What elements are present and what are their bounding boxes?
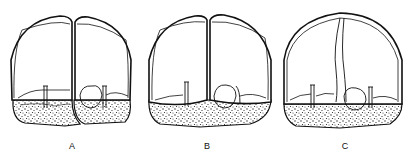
panel-label-c: C bbox=[342, 141, 349, 151]
panel-b-illustration bbox=[149, 15, 271, 127]
panel-a-left-cusp bbox=[11, 16, 72, 100]
diagram-canvas bbox=[0, 0, 409, 160]
panel-b-right-cusp bbox=[210, 15, 271, 104]
panel-b-left-cusp bbox=[149, 16, 207, 105]
panel-a-illustration bbox=[11, 16, 131, 126]
panel-c-base bbox=[284, 104, 402, 128]
panel-label-a: A bbox=[69, 141, 75, 151]
panel-c-illustration bbox=[284, 13, 402, 128]
panel-label-b: B bbox=[204, 141, 210, 151]
